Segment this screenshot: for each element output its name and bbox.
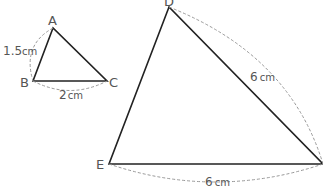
vertex-label-e: E: [96, 157, 104, 172]
measure-bc-value: 2: [59, 88, 67, 102]
vertex-label-c: C: [109, 75, 118, 90]
measure-ef-value: 6: [205, 175, 213, 189]
measure-ef-unit: cm: [215, 177, 230, 188]
small-triangle: [30, 28, 107, 91]
measure-ab-value: 1.5: [3, 44, 22, 58]
measure-df-unit: cm: [260, 72, 275, 83]
measure-bc-unit: cm: [68, 90, 83, 101]
vertex-label-d: D: [164, 0, 174, 9]
diagram-canvas: A B C 1.5cm 2cm D E 6cm 6cm: [0, 0, 323, 191]
triangle-def: [109, 7, 323, 164]
measure-ab-unit: cm: [22, 46, 37, 57]
measure-df: 6cm: [250, 70, 275, 84]
measure-ef: 6cm: [205, 175, 230, 189]
measure-bc: 2cm: [59, 88, 83, 102]
measure-ab: 1.5cm: [3, 44, 37, 58]
vertex-label-a: A: [48, 13, 57, 28]
large-triangle: [109, 7, 323, 182]
vertex-label-b: B: [20, 75, 29, 90]
triangle-abc: [33, 28, 107, 81]
measure-df-value: 6: [250, 70, 258, 84]
